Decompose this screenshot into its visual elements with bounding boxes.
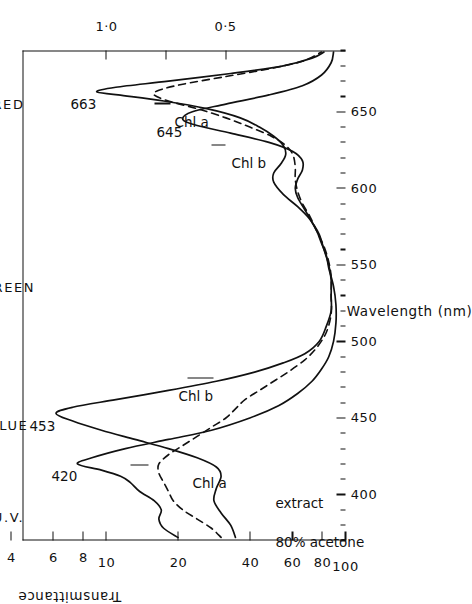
transmittance-tick-label: 6 bbox=[48, 550, 57, 565]
peak-label-663: 663 bbox=[70, 96, 96, 112]
transmittance-tick-label: 60 bbox=[283, 554, 301, 569]
callout-leader bbox=[187, 377, 213, 378]
transmittance-tick-label: 100 bbox=[332, 559, 358, 574]
region-label-green: GREEN bbox=[0, 280, 35, 295]
series-callout-chl-a-blue: Chl a bbox=[192, 474, 226, 490]
wavelength-tick-label: 400 bbox=[350, 487, 376, 502]
wavelength-tick-label: 600 bbox=[350, 180, 376, 195]
wavelength-tick-label: 550 bbox=[350, 257, 376, 272]
absorbance-tick-label: 1·0 bbox=[95, 18, 117, 33]
series-callout-chl-b-blue: Chl b bbox=[178, 387, 213, 403]
plot-area: 400450500550600650 124681020406080100 1·… bbox=[22, 50, 345, 540]
peak-label-453: 453 bbox=[29, 418, 55, 434]
absorbance-tick-label: 0·5 bbox=[214, 18, 236, 33]
peak-label-420: 420 bbox=[51, 468, 77, 484]
axis-title-wavelength: Wavelength (nm) bbox=[346, 302, 472, 318]
axis-title-transmittance: Transmittance bbox=[17, 588, 121, 604]
transmittance-tick bbox=[10, 531, 11, 540]
transmittance-tick-label: 10 bbox=[97, 554, 115, 569]
region-label-red: RED bbox=[0, 96, 24, 111]
transmittance-tick-label: 80 bbox=[313, 554, 331, 569]
transmittance-tick-label: 40 bbox=[241, 554, 259, 569]
wavelength-tick-label: 450 bbox=[350, 410, 376, 425]
callout-leader bbox=[130, 464, 148, 465]
series-callout-acetone-line1: 80% acetone bbox=[275, 533, 364, 549]
callout-leader bbox=[211, 144, 225, 145]
transmittance-tick-label: 4 bbox=[6, 550, 15, 565]
transmittance-tick-label: 8 bbox=[78, 550, 87, 565]
series-callout-chl-a-red: Chl a bbox=[174, 113, 208, 129]
series-callout-chl-b-red: Chl b bbox=[231, 154, 266, 170]
series-callout-acetone-line2: extract bbox=[275, 495, 323, 511]
callout-leader bbox=[154, 103, 170, 104]
wavelength-tick-label: 650 bbox=[350, 104, 376, 119]
region-label-blue: BLUE bbox=[0, 418, 28, 433]
region-label-uv: U.V. bbox=[0, 510, 24, 525]
wavelength-tick-label: 500 bbox=[350, 333, 376, 348]
transmittance-tick-label: 20 bbox=[169, 554, 187, 569]
